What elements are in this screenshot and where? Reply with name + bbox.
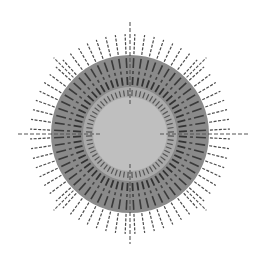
tick [56, 67, 71, 80]
tick [122, 182, 123, 190]
tick [74, 141, 82, 142]
tick [150, 190, 151, 193]
tick [109, 191, 110, 194]
tick [209, 119, 229, 122]
tick [79, 203, 89, 220]
tick [178, 198, 190, 214]
tick [96, 209, 103, 228]
tick [134, 34, 135, 54]
tick [188, 119, 191, 120]
tick [178, 54, 190, 70]
tick [36, 161, 55, 168]
tick [106, 37, 111, 56]
tick [187, 154, 190, 155]
tick [205, 161, 224, 168]
tick [87, 206, 96, 224]
tick [31, 119, 51, 122]
tick [125, 34, 126, 54]
tick [194, 182, 210, 194]
tick [142, 35, 145, 55]
tick [142, 213, 145, 233]
tick [208, 110, 227, 115]
tick [71, 113, 74, 114]
tick [70, 198, 82, 214]
tick [40, 168, 58, 177]
tick [33, 153, 52, 158]
tick [199, 83, 216, 93]
tick [196, 130, 206, 131]
tick [106, 212, 111, 231]
tick [109, 75, 110, 78]
tick [74, 126, 82, 127]
tick [171, 203, 181, 220]
tick [54, 137, 64, 138]
tick [188, 149, 191, 150]
tick [208, 153, 227, 158]
tick [210, 138, 230, 139]
tick [125, 214, 126, 234]
tick [137, 182, 138, 190]
tick [115, 73, 116, 76]
tick [189, 67, 204, 80]
tick [171, 48, 181, 65]
tick [50, 182, 66, 194]
tick [137, 78, 138, 86]
tick [115, 192, 116, 195]
tick [115, 213, 118, 233]
tick [56, 188, 71, 201]
tick [178, 126, 186, 127]
tick [145, 73, 146, 76]
tick [31, 146, 51, 149]
tick [133, 200, 134, 210]
tick [63, 60, 76, 75]
tick [70, 54, 82, 70]
tick [79, 48, 89, 65]
inner-disc [93, 97, 167, 171]
tick [205, 100, 224, 107]
tick [157, 40, 164, 59]
tick [96, 40, 103, 59]
tick [149, 212, 154, 231]
tick [69, 119, 72, 120]
tick [63, 193, 76, 208]
tick [87, 44, 96, 62]
tick [157, 209, 164, 228]
tick [36, 100, 55, 107]
tick [189, 188, 204, 201]
tick [40, 91, 58, 100]
tick [194, 74, 210, 86]
tick [44, 175, 61, 185]
tick [134, 214, 135, 234]
tick [164, 206, 173, 224]
tick [44, 83, 61, 93]
tick [126, 58, 127, 68]
tick [150, 75, 151, 78]
tick [199, 175, 216, 185]
tick [186, 113, 189, 114]
tick [210, 129, 230, 130]
tick [184, 193, 197, 208]
tick [30, 138, 50, 139]
tick [149, 37, 154, 56]
tick [209, 146, 229, 149]
tick [178, 141, 186, 142]
tick [184, 60, 197, 75]
tick [71, 154, 74, 155]
tick [202, 168, 220, 177]
tick [202, 91, 220, 100]
tick [122, 78, 123, 86]
tick [50, 74, 66, 86]
tick [33, 110, 52, 115]
tick [69, 149, 72, 150]
tick [145, 192, 146, 195]
tick [164, 44, 173, 62]
tick [30, 129, 50, 130]
tick [115, 35, 118, 55]
radial-diagram [0, 0, 260, 270]
